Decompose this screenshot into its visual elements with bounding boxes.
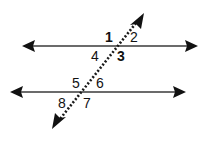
angle-label-7: 7	[83, 95, 91, 111]
angle-label-1: 1	[105, 29, 113, 45]
angle-label-5: 5	[72, 75, 80, 91]
angle-label-3: 3	[117, 48, 125, 64]
angle-label-4: 4	[91, 48, 99, 64]
angle-label-6: 6	[96, 75, 104, 91]
angle-label-2: 2	[130, 29, 138, 45]
angle-label-8: 8	[58, 95, 66, 111]
angle-diagram: 1 2 3 4 5 6 7 8	[0, 0, 203, 145]
